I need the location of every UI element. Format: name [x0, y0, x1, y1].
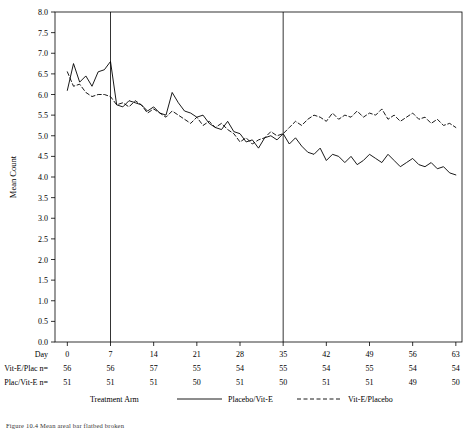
y-tick-label: 6.5: [38, 70, 48, 79]
legend-title: Treatment Arm: [90, 395, 140, 404]
y-axis-ticks: 0.00.51.01.52.02.53.03.54.04.55.05.56.06…: [38, 8, 55, 347]
y-tick-label: 2.5: [38, 235, 48, 244]
n-table-cell: 55: [193, 364, 201, 373]
n-table-cell: 56: [409, 350, 417, 359]
n-table-cell: 35: [279, 350, 287, 359]
y-tick-label: 4.0: [38, 173, 48, 182]
y-axis-title: Mean Count: [8, 155, 18, 198]
y-tick-label: 5.5: [38, 111, 48, 120]
n-table-cell: 21: [193, 350, 201, 359]
y-tick-label: 1.5: [38, 276, 48, 285]
n-table-cell: 50: [193, 378, 201, 387]
n-table-cell: 51: [322, 378, 330, 387]
n-table-cell: 56: [63, 364, 71, 373]
reference-lines: [111, 12, 284, 342]
y-tick-label: 2.0: [38, 256, 48, 265]
legend-label-solid: Placebo/Vit-E: [228, 395, 273, 404]
figure-container: 0.00.51.01.52.02.53.03.54.04.55.05.56.06…: [0, 0, 471, 432]
y-tick-label: 0.5: [38, 317, 48, 326]
n-table-cell: 49: [366, 350, 374, 359]
n-table-cell: 56: [107, 364, 115, 373]
y-tick-label: 3.5: [38, 194, 48, 203]
n-table-row-label: Vit-E/Plac n=: [4, 364, 48, 373]
n-table-cell: 54: [409, 364, 417, 373]
y-tick-label: 6.0: [38, 91, 48, 100]
n-table-cell: 51: [63, 378, 71, 387]
figure-caption: Figure 10.4 Mean areal bar flatbed broke…: [6, 422, 124, 429]
n-table-cell: 54: [452, 364, 460, 373]
n-table-cell: 55: [366, 364, 374, 373]
n-table-cell: 28: [236, 350, 244, 359]
n-table-cell: 42: [322, 350, 330, 359]
n-table-cell: 54: [322, 364, 330, 373]
y-tick-label: 5.0: [38, 132, 48, 141]
n-table-cell: 51: [366, 378, 374, 387]
n-table-cell: 51: [150, 378, 158, 387]
y-tick-label: 7.5: [38, 29, 48, 38]
n-table-cell: 7: [109, 350, 113, 359]
n-table-cell: 49: [409, 378, 417, 387]
y-tick-label: 8.0: [38, 8, 48, 17]
n-table-cell: 50: [279, 378, 287, 387]
y-tick-label: 0.0: [38, 338, 48, 347]
y-tick-label: 7.0: [38, 49, 48, 58]
n-table-cell: 63: [452, 350, 460, 359]
n-table-cell: 55: [279, 364, 287, 373]
y-tick-label: 4.5: [38, 152, 48, 161]
legend-label-dashed: Vit-E/Placebo: [348, 395, 393, 404]
n-table-cell: 51: [236, 378, 244, 387]
legend: Treatment ArmPlacebo/Vit-EVit-E/Placebo: [90, 395, 393, 404]
y-tick-label: 3.0: [38, 214, 48, 223]
n-table-cell: 50: [452, 378, 460, 387]
n-table-cell: 57: [150, 364, 158, 373]
n-table: Day071421283542495663Vit-E/Plac n=565657…: [4, 350, 460, 387]
series-line: [67, 72, 456, 144]
line-chart: 0.00.51.01.52.02.53.03.54.04.55.05.56.06…: [0, 0, 471, 405]
n-table-row-label: Day: [35, 350, 48, 359]
axes: [55, 12, 462, 346]
n-table-cell: 51: [107, 378, 115, 387]
n-table-row-label: Plac/Vit-E n=: [4, 378, 48, 387]
n-table-cell: 54: [236, 364, 244, 373]
data-series: [67, 62, 456, 175]
n-table-cell: 14: [150, 350, 158, 359]
plot-frame: [55, 12, 462, 342]
y-tick-label: 1.0: [38, 297, 48, 306]
n-table-cell: 0: [65, 350, 69, 359]
